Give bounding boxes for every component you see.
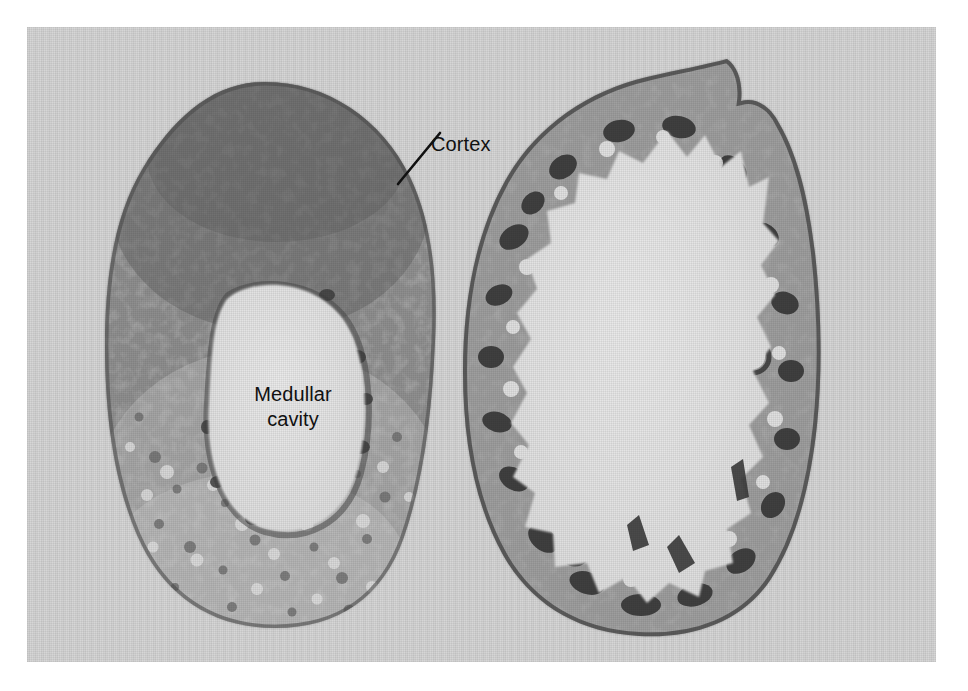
normal-specimen-group — [95, 72, 447, 662]
figure-root: Cortex Medullar cavity (a) Normal Atroph… — [0, 0, 968, 691]
medullar-cavity-label-line2: cavity — [267, 408, 319, 430]
medullar-cavity-label-line1: Medullar — [254, 383, 332, 405]
photomicrograph-plate: Cortex Medullar cavity (a) Normal Atroph… — [27, 27, 936, 662]
normal-caption: Normal — [228, 661, 358, 662]
panel-label: (a) — [97, 658, 123, 662]
specimen-illustration — [27, 27, 936, 662]
medullar-cavity-label: Medullar cavity — [224, 382, 362, 432]
atrophy-specimen-group — [457, 52, 832, 647]
atrophy-caption: Atrophy — [707, 661, 837, 662]
cortex-label: Cortex — [431, 133, 491, 156]
